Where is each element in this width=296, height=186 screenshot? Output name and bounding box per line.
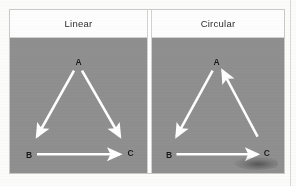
scanned-page-background: Linear A B C [0,0,296,186]
node-label-A: A [75,58,81,67]
panel-circular: Circular A B C [152,10,284,173]
figure-frame: Linear A B C [9,9,285,174]
panel-linear-title: Linear [10,10,147,38]
node-label-B: B [26,151,32,160]
panel-linear: Linear A B C [10,10,147,173]
node-label-A: A [214,58,220,67]
panel-circular-canvas: A B C [152,38,284,173]
page-edge-line [290,0,291,186]
node-label-C: C [127,149,133,158]
edge-C-to-A [222,71,257,137]
panel-linear-canvas: A B C [10,38,147,173]
edge-A-to-B [176,71,212,137]
edge-A-to-C [82,71,120,137]
panel-circular-title: Circular [152,10,284,38]
edge-A-to-B [37,71,74,137]
node-label-B: B [166,151,172,160]
node-label-C: C [264,149,270,158]
